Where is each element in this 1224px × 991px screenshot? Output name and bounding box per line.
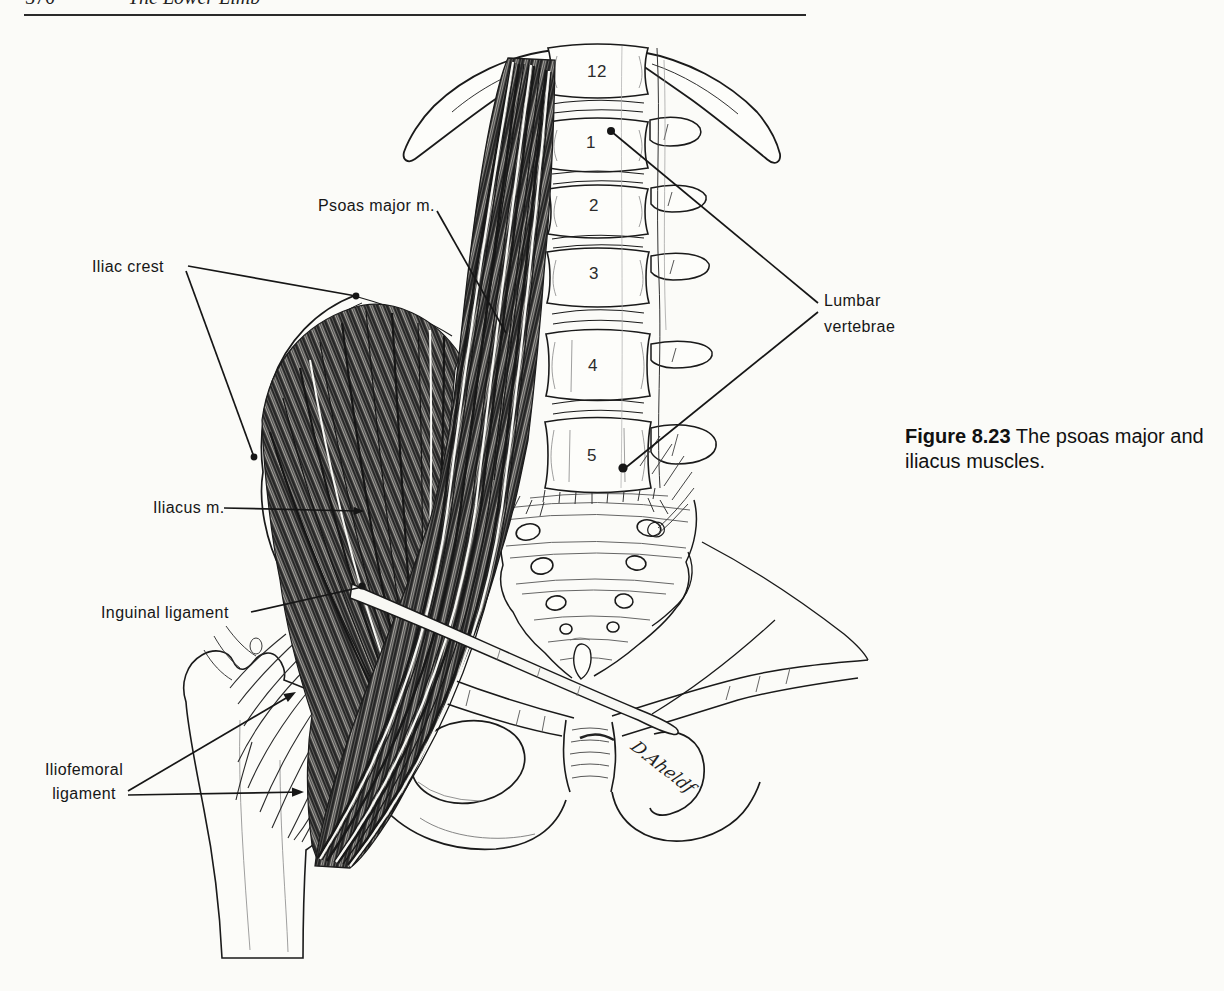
- iliac-crest-leader-upper: [188, 266, 356, 296]
- running-header-title: The Lower Limb: [128, 0, 260, 9]
- label-inguinal-ligament: Inguinal ligament: [101, 604, 229, 622]
- vertebra-number-l1: 1: [586, 133, 596, 153]
- label-lumbar-vertebrae: Lumbar vertebrae: [824, 288, 908, 340]
- figure-caption: Figure 8.23 The psoas major and iliacus …: [905, 424, 1205, 474]
- label-iliofemoral-ligament: Iliofemoral ligament: [36, 758, 132, 806]
- figure-caption-label: Figure 8.23: [905, 425, 1011, 447]
- iliac-crest-leader-lower: [186, 271, 254, 457]
- vertebra-number-l3: 3: [589, 264, 599, 284]
- vertebra-number-l2: 2: [589, 196, 599, 216]
- vertebra-number-l5: 5: [587, 446, 597, 466]
- textbook-page: 370 The Lower Limb Psoas major m. Iliac …: [0, 0, 1224, 991]
- label-psoas-major: Psoas major m.: [318, 197, 435, 215]
- sacrum-drawing: [501, 488, 697, 679]
- label-iliacus: Iliacus m.: [153, 499, 225, 517]
- anatomy-illustration: [0, 0, 1224, 991]
- label-iliac-crest: Iliac crest: [92, 258, 164, 276]
- vertebra-number-l4: 4: [588, 356, 598, 376]
- page-number: 370: [25, 0, 55, 9]
- lumbar-leader-lower: [624, 312, 818, 469]
- header-rule: [24, 14, 806, 16]
- right-rib: [640, 52, 780, 163]
- vertebra-number-t12: 12: [587, 62, 607, 82]
